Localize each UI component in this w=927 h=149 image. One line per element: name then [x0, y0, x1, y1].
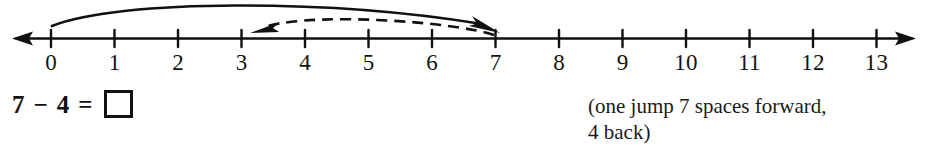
number-line-figure: 0 1 2 3 4 5 6 7 8 9 10 11 12 13 7 − 4 = … — [0, 0, 927, 149]
tick-label-11: 11 — [720, 50, 780, 76]
tick-label-8: 8 — [529, 50, 589, 76]
number-line-graphic — [0, 0, 927, 92]
equation-subtrahend: 4 — [57, 92, 70, 117]
tick-label-6: 6 — [402, 50, 462, 76]
equals-sign: = — [78, 92, 92, 117]
tick-label-1: 1 — [85, 50, 145, 76]
tick-label-2: 2 — [148, 50, 208, 76]
tick-label-5: 5 — [339, 50, 399, 76]
tick-label-10: 10 — [656, 50, 716, 76]
tick-label-9: 9 — [593, 50, 653, 76]
backward-jump-arrowhead-icon — [250, 22, 280, 33]
minus-operator-icon: − — [34, 92, 48, 117]
tick-label-0: 0 — [21, 50, 81, 76]
equation-minuend: 7 — [12, 92, 25, 117]
tick-label-13: 13 — [847, 50, 907, 76]
tick-label-7: 7 — [466, 50, 526, 76]
answer-box[interactable] — [104, 90, 133, 118]
equation: 7 − 4 = — [12, 87, 133, 121]
caption-line-1: (one jump 7 spaces forward, — [588, 93, 827, 119]
caption-line-2: 4 back) — [588, 119, 827, 145]
caption: (one jump 7 spaces forward, 4 back) — [588, 93, 827, 145]
tick-label-4: 4 — [275, 50, 335, 76]
tick-label-3: 3 — [212, 50, 272, 76]
tick-label-12: 12 — [783, 50, 843, 76]
